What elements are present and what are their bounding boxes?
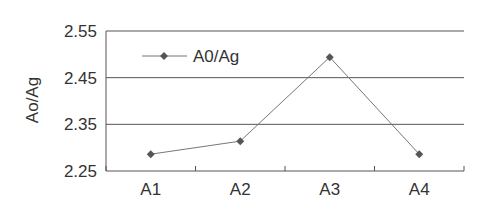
gridlines (106, 31, 464, 124)
x-tick-label: A4 (409, 180, 430, 199)
series-line (151, 57, 420, 154)
line-chart: 2.252.352.452.55 A1A2A3A4 Ao/Ag A0/Ag (0, 0, 486, 206)
y-tick-label: 2.25 (64, 162, 97, 181)
y-tick-label: 2.35 (64, 115, 97, 134)
legend-diamond-marker-icon (160, 52, 168, 60)
y-tick-label: 2.55 (64, 22, 97, 41)
x-tick-label: A1 (140, 180, 161, 199)
x-tick-label: A2 (230, 180, 251, 199)
series-a0-ag (147, 53, 424, 158)
y-axis-title: Ao/Ag (23, 77, 42, 123)
axes (106, 31, 464, 171)
y-tick-label: 2.45 (64, 69, 97, 88)
x-axis-tick-labels: A1A2A3A4 (140, 180, 429, 199)
x-tick-label: A3 (319, 180, 340, 199)
y-axis-tick-labels: 2.252.352.452.55 (64, 22, 97, 181)
legend: A0/Ag (142, 47, 239, 66)
legend-label: A0/Ag (193, 47, 239, 66)
data-point-diamond-icon (147, 150, 155, 158)
